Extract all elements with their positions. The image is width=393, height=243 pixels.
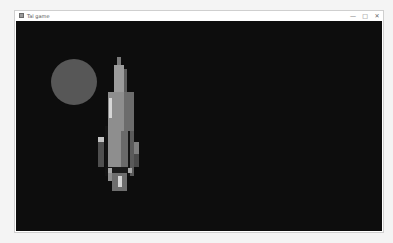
rocket-mid-shade bbox=[124, 92, 134, 132]
rocket-white-stripe bbox=[109, 98, 112, 118]
rocket-upper-shade bbox=[124, 69, 127, 93]
title-bar[interactable]: Tal game — □ ✕ bbox=[15, 11, 383, 21]
rocket-left-fin-cap bbox=[98, 137, 104, 142]
rocket-right-fin-cap bbox=[134, 142, 139, 154]
window-title: Tal game bbox=[27, 12, 49, 20]
moon-circle bbox=[51, 59, 97, 105]
minimize-button[interactable]: — bbox=[347, 11, 359, 21]
app-icon bbox=[19, 13, 24, 18]
rocket-base-right-light bbox=[128, 168, 132, 173]
rocket-flame-core bbox=[118, 176, 122, 187]
close-button[interactable]: ✕ bbox=[371, 11, 383, 21]
game-canvas[interactable] bbox=[16, 21, 382, 231]
maximize-button[interactable]: □ bbox=[359, 11, 371, 21]
game-window: Tal game — □ ✕ bbox=[14, 10, 384, 233]
rocket-inner-shade bbox=[121, 131, 128, 171]
rocket-upper-body bbox=[114, 65, 124, 93]
